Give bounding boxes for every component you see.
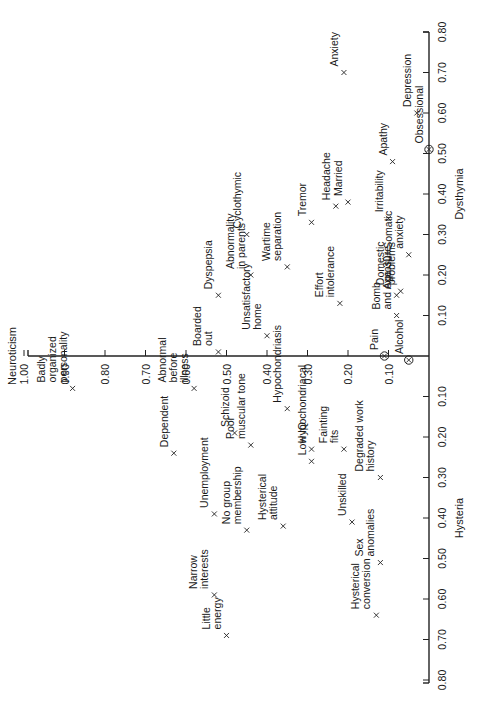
data-point bbox=[171, 451, 176, 456]
data-point bbox=[346, 200, 351, 205]
x-marker-icon bbox=[212, 511, 217, 516]
x-marker-icon bbox=[394, 293, 399, 298]
point-label: interests bbox=[198, 549, 210, 589]
data-point bbox=[309, 459, 314, 464]
point-label: fits bbox=[328, 430, 340, 443]
data-point bbox=[285, 264, 290, 269]
data-point bbox=[70, 386, 75, 391]
data-points: AnxietyDepressionObsessionalApathyMarrie… bbox=[35, 31, 434, 638]
x-marker-icon bbox=[244, 528, 249, 533]
tick-label: 1.00 bbox=[18, 364, 30, 385]
point-label: home bbox=[251, 303, 263, 329]
x-marker-icon bbox=[248, 443, 253, 448]
data-point bbox=[224, 633, 229, 638]
tick-label: 0.30 bbox=[436, 467, 448, 488]
hysteria-ticks: 0.100.200.300.400.500.600.700.80 bbox=[423, 386, 448, 690]
point-label: Obsessional bbox=[413, 86, 425, 144]
x-marker-icon bbox=[378, 475, 383, 480]
x-marker-icon bbox=[350, 520, 355, 525]
point-label: Apathy bbox=[377, 122, 389, 155]
data-point bbox=[350, 520, 355, 525]
x-marker-icon bbox=[70, 386, 75, 391]
x-marker-icon bbox=[265, 333, 270, 338]
point-label: Headache bbox=[320, 152, 332, 200]
tick-label: 0.40 bbox=[436, 508, 448, 529]
tick-label: 0.30 bbox=[436, 224, 448, 245]
point-label: Alcohol bbox=[393, 320, 405, 354]
tick-label: 0.50 bbox=[221, 364, 233, 385]
scatter-chart: 1.000.900.800.700.600.500.400.300.200.10… bbox=[0, 0, 484, 712]
point-label: Tremor bbox=[296, 182, 308, 216]
data-point bbox=[406, 252, 411, 257]
data-point bbox=[309, 220, 314, 225]
x-marker-icon bbox=[390, 159, 395, 164]
tick-label: 0.70 bbox=[436, 62, 448, 83]
data-point bbox=[337, 301, 342, 306]
x-marker-icon bbox=[406, 358, 411, 363]
tick-label: 0.60 bbox=[436, 589, 448, 610]
x-marker-icon bbox=[216, 293, 221, 298]
data-point bbox=[374, 613, 379, 618]
x-marker-icon bbox=[406, 252, 411, 257]
tick-label: 0.20 bbox=[436, 265, 448, 286]
point-label: illness bbox=[178, 353, 190, 382]
x-marker-icon bbox=[224, 633, 229, 638]
data-point bbox=[394, 313, 399, 318]
data-point bbox=[390, 159, 395, 164]
data-point bbox=[244, 528, 249, 533]
data-point bbox=[281, 524, 286, 529]
x-marker-icon bbox=[309, 459, 314, 464]
tick-label: 0.80 bbox=[99, 364, 111, 385]
point-label: Dyspepsia bbox=[202, 240, 214, 289]
tick-label: 0.40 bbox=[436, 184, 448, 205]
point-label: history bbox=[364, 440, 376, 472]
point-label: out bbox=[202, 331, 214, 346]
tick-label: 0.70 bbox=[436, 629, 448, 650]
point-label: personality bbox=[57, 331, 69, 383]
x-marker-icon bbox=[309, 220, 314, 225]
x-marker-icon bbox=[281, 524, 286, 529]
data-point bbox=[394, 293, 399, 298]
data-point bbox=[405, 356, 413, 364]
point-label: membership bbox=[231, 466, 243, 524]
x-marker-icon bbox=[341, 70, 346, 75]
tick-label: 0.20 bbox=[436, 427, 448, 448]
x-marker-icon bbox=[285, 264, 290, 269]
data-point bbox=[378, 475, 383, 480]
point-label: in parents bbox=[235, 223, 247, 269]
x-marker-icon bbox=[192, 386, 197, 391]
tick-label: 0.80 bbox=[436, 22, 448, 43]
tick-label: 0.20 bbox=[342, 364, 354, 385]
x-marker-icon bbox=[216, 349, 221, 354]
tick-label: 0.10 bbox=[436, 386, 448, 407]
data-point bbox=[212, 511, 217, 516]
data-point bbox=[341, 70, 346, 75]
point-label: Low IQ bbox=[296, 422, 308, 455]
x-marker-icon bbox=[333, 204, 338, 209]
x-marker-icon bbox=[341, 447, 346, 452]
tick-label: 0.80 bbox=[436, 670, 448, 691]
point-label: separation bbox=[271, 212, 283, 261]
data-point bbox=[309, 447, 314, 452]
data-point bbox=[248, 443, 253, 448]
point-label: attitude bbox=[267, 485, 279, 520]
x-marker-icon bbox=[346, 200, 351, 205]
tick-label: 0.50 bbox=[436, 143, 448, 164]
tick-label: 0.10 bbox=[383, 364, 395, 385]
tick-label: 0.50 bbox=[436, 548, 448, 569]
x-marker-icon bbox=[285, 406, 290, 411]
point-label: Unskilled bbox=[336, 473, 348, 516]
point-label: Unemployment bbox=[198, 437, 210, 508]
x-marker-icon bbox=[374, 613, 379, 618]
tick-label: 0.60 bbox=[436, 103, 448, 124]
point-label: Pain bbox=[368, 329, 380, 350]
point-label: Irritability bbox=[373, 170, 385, 213]
x-marker-icon bbox=[394, 313, 399, 318]
data-point bbox=[216, 349, 221, 354]
data-point bbox=[192, 386, 197, 391]
point-label: Hypochondriasis bbox=[271, 325, 283, 403]
data-point bbox=[265, 333, 270, 338]
point-label: Married bbox=[332, 160, 344, 196]
dysthymia-axis-title: Dysthymia bbox=[453, 167, 465, 219]
data-point bbox=[212, 592, 217, 597]
